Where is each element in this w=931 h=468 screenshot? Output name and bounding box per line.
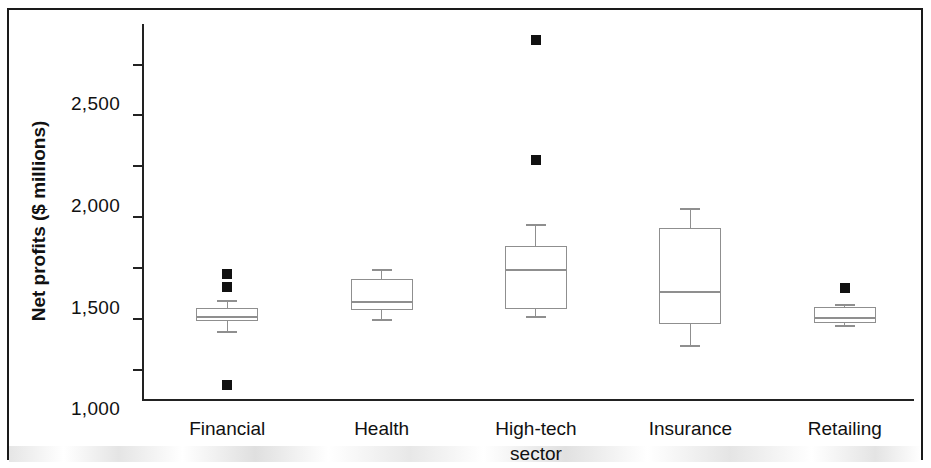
- median-line: [505, 269, 567, 271]
- y-axis-line: [142, 24, 144, 400]
- lower-whisker-line: [227, 321, 228, 331]
- upper-whisker-line: [535, 224, 536, 245]
- median-line: [814, 317, 876, 319]
- outlier-marker: [222, 282, 232, 292]
- lower-whisker-cap: [217, 331, 237, 333]
- y-tick-label: 1,500: [71, 297, 120, 319]
- y-tick-mark: 2,000: [133, 114, 143, 116]
- y-axis-title: Net profits ($ millions): [22, 96, 56, 346]
- lower-whisker-cap: [680, 345, 700, 347]
- y-tick-mark: 2,500: [133, 64, 143, 66]
- lower-whisker-cap: [835, 325, 855, 327]
- y-tick-label: 1,000: [71, 398, 120, 420]
- y-tick-label: 2,000: [71, 195, 120, 217]
- lower-whisker-cap: [372, 319, 392, 321]
- y-tick-mark: 1,000: [133, 216, 143, 218]
- x-axis-category-label: Health: [354, 416, 409, 441]
- box-iqr-rect: [196, 308, 258, 321]
- upper-whisker-cap: [680, 208, 700, 210]
- y-axis-title-text: Net profits ($ millions): [28, 121, 50, 322]
- y-tick-mark: −500: [133, 369, 143, 371]
- figure-container: Net profits ($ millions) 2,5002,0001,500…: [0, 0, 931, 468]
- upper-whisker-cap: [372, 269, 392, 271]
- x-axis-category-label: Retailing: [808, 416, 882, 441]
- lower-whisker-line: [381, 310, 382, 319]
- median-line: [659, 291, 721, 293]
- x-axis-category-label-line: Financial: [189, 416, 265, 441]
- box-iqr-rect: [351, 279, 413, 310]
- x-axis-category-label-line: Health: [354, 416, 409, 441]
- plot-area: 2,5002,0001,5001,0005000−500 FinancialHe…: [142, 24, 914, 400]
- box-plot-group: [768, 24, 922, 400]
- upper-whisker-cap: [217, 300, 237, 302]
- y-tick-mark: 0: [133, 318, 143, 320]
- upper-whisker-cap: [526, 224, 546, 226]
- median-line: [351, 301, 413, 303]
- x-axis-category-label: High-techsector: [495, 416, 576, 466]
- box-plot-group: [613, 24, 767, 400]
- outlier-marker: [531, 35, 541, 45]
- x-axis-category-label-line: Insurance: [649, 416, 732, 441]
- x-axis-category-label-line: sector: [495, 441, 576, 466]
- median-line: [196, 316, 258, 318]
- lower-whisker-line: [535, 309, 536, 316]
- x-axis-category-label: Insurance: [649, 416, 732, 441]
- outlier-marker: [531, 155, 541, 165]
- box-plot-group: [459, 24, 613, 400]
- scan-artifact-band: [9, 446, 921, 462]
- box-plot-group: [150, 24, 304, 400]
- x-axis-category-label-line: High-tech: [495, 416, 576, 441]
- lower-whisker-line: [690, 324, 691, 345]
- upper-whisker-line: [690, 208, 691, 227]
- outlier-marker: [222, 380, 232, 390]
- y-tick-mark: 500: [133, 267, 143, 269]
- x-axis-category-label-line: Retailing: [808, 416, 882, 441]
- outlier-marker: [222, 269, 232, 279]
- lower-whisker-cap: [526, 316, 546, 318]
- box-iqr-rect: [814, 307, 876, 323]
- y-tick-mark: 1,500: [133, 165, 143, 167]
- outlier-marker: [840, 283, 850, 293]
- box-iqr-rect: [505, 246, 567, 309]
- box-iqr-rect: [659, 228, 721, 324]
- y-tick-label: 2,500: [71, 93, 120, 115]
- box-plot-group: [304, 24, 458, 400]
- x-axis-category-label: Financial: [189, 416, 265, 441]
